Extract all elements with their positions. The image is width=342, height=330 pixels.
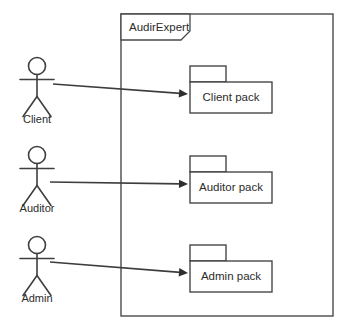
actor-head-icon: [29, 147, 46, 164]
actor-admin: Admin: [20, 237, 54, 305]
actor-head-icon: [29, 58, 46, 75]
package-label-admin-pack: Admin pack: [201, 270, 261, 282]
actors-group: ClientAuditorAdmin: [20, 58, 55, 305]
uml-package-diagram: AudirExpert ClientAuditorAdmin Client pa…: [0, 0, 342, 330]
actor-label-admin: Admin: [21, 292, 52, 304]
package-tab-auditor-pack: [190, 156, 226, 172]
system-boundary-label: AudirExpert: [129, 21, 190, 33]
package-label-client-pack: Client pack: [203, 91, 260, 103]
actor-label-client: Client: [23, 113, 51, 125]
actor-auditor: Auditor: [20, 147, 55, 215]
actor-client: Client: [20, 58, 54, 126]
actor-label-auditor: Auditor: [20, 202, 55, 214]
package-tab-admin-pack: [190, 245, 226, 261]
actor-head-icon: [29, 237, 46, 254]
package-label-auditor-pack: Auditor pack: [199, 181, 263, 193]
diagram-canvas: AudirExpert ClientAuditorAdmin Client pa…: [0, 0, 342, 330]
package-tab-client-pack: [190, 66, 226, 82]
